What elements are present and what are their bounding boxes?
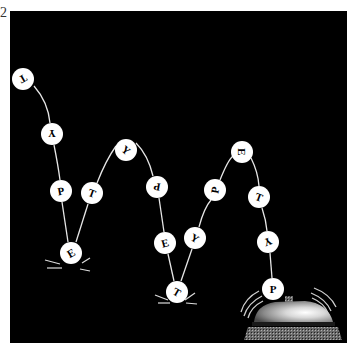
ball-letter: E (236, 148, 248, 155)
desk-bell-icon (241, 288, 342, 340)
letter-ball: P (50, 180, 72, 202)
letter-ball: Y (184, 227, 206, 249)
ball-letter: P (270, 283, 277, 295)
letter-ball: Y (115, 139, 137, 161)
ball-letter: Y (48, 128, 56, 140)
letter-ball: E (231, 141, 253, 163)
letter-ball: P (146, 176, 168, 198)
letter-ball: E (60, 242, 82, 264)
letter-ball: E (154, 232, 176, 254)
letter-ball: Y (257, 231, 279, 253)
letter-ball: T (81, 182, 103, 204)
letter-ball: P (204, 179, 226, 201)
letter-ball: P (262, 278, 284, 300)
letter-ball: T (166, 281, 188, 303)
bouncing-letters-illustration: TYPETYPETYPETYP (0, 0, 355, 349)
letter-ball: T (12, 68, 34, 90)
letter-ball: T (248, 186, 270, 208)
letter-ball: Y (41, 123, 63, 145)
